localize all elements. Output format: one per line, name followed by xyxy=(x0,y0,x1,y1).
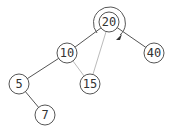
node-label: 15 xyxy=(83,77,97,91)
node-20: 20 xyxy=(99,12,119,32)
tree-diagram: 20 10 40 5 15 7 xyxy=(0,0,175,131)
node-label: 40 xyxy=(147,46,161,60)
node-label: 5 xyxy=(15,77,22,91)
node-label: 20 xyxy=(102,15,116,29)
node-15: 15 xyxy=(80,74,100,94)
node-7: 7 xyxy=(35,105,55,125)
node-label: 7 xyxy=(41,108,48,122)
rotation-arrowhead-icon xyxy=(116,34,122,40)
node-5: 5 xyxy=(9,74,29,94)
node-40: 40 xyxy=(144,43,164,63)
node-10: 10 xyxy=(57,43,77,63)
node-label: 10 xyxy=(60,46,74,60)
